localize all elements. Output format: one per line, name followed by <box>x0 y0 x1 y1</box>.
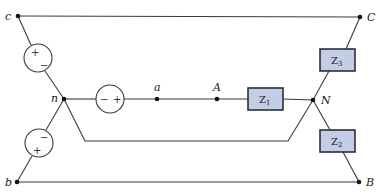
node-B <box>357 180 362 185</box>
wire-Z2-B <box>343 152 359 182</box>
label-C: C <box>367 11 376 24</box>
wire-Z1-N <box>283 99 313 100</box>
label-N: N <box>320 94 331 107</box>
node-b <box>15 180 20 185</box>
wire-b-source <box>17 156 32 182</box>
circuit-diagram: + − − + − + Z1 Z3 Z2 c <box>0 0 383 195</box>
impedance-z1: Z1 <box>248 88 283 110</box>
label-n: n <box>51 92 58 105</box>
plus-sign: + <box>33 145 41 156</box>
label-B: B <box>365 176 374 189</box>
label-c: c <box>5 10 11 23</box>
voltage-source-an: − + <box>96 85 124 113</box>
node-A <box>215 97 220 102</box>
minus-sign: − <box>40 60 48 71</box>
wire-c-source <box>18 16 31 45</box>
plus-sign: + <box>31 47 39 58</box>
node-n <box>62 97 67 102</box>
node-C <box>358 15 363 20</box>
label-a: a <box>154 81 161 94</box>
impedance-z3: Z3 <box>320 49 355 71</box>
impedance-z2: Z2 <box>320 130 355 152</box>
label-A: A <box>212 81 221 94</box>
minus-sign: − <box>40 132 48 143</box>
label-b: b <box>5 176 12 189</box>
node-N <box>311 98 316 103</box>
plus-sign: + <box>113 94 121 105</box>
wire-c-C <box>18 16 360 17</box>
voltage-source-bn: − + <box>25 129 53 157</box>
voltage-source-cn: + − <box>24 44 52 72</box>
node-a <box>155 97 160 102</box>
minus-sign: − <box>100 94 108 105</box>
wire-C-Z3 <box>346 17 360 49</box>
node-c <box>16 14 21 19</box>
